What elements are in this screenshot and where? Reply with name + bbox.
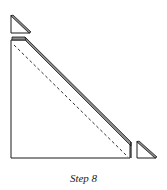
- step-caption: Step 8: [0, 172, 167, 184]
- folding-diagram: [0, 0, 167, 190]
- right-small-triangle: [137, 141, 157, 158]
- main-folded-shape: [11, 37, 131, 158]
- top-small-triangle: [11, 15, 31, 33]
